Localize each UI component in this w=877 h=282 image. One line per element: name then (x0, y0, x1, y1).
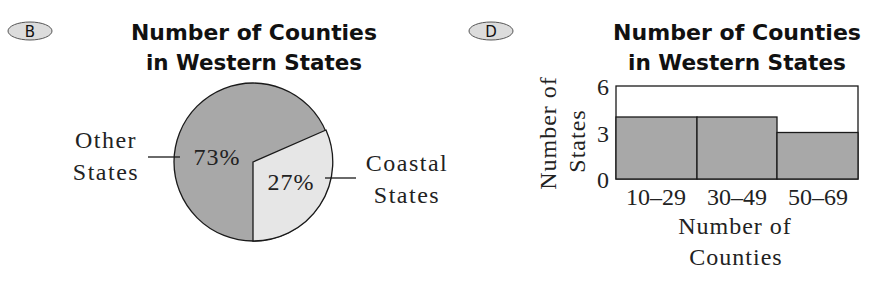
y-tick-3: 3 (597, 121, 609, 147)
bar-title-line2: in Western States (628, 51, 846, 75)
x-tick-30-49: 30–49 (707, 184, 767, 210)
bar-30-49 (697, 117, 777, 179)
bar-10-29 (616, 117, 697, 179)
x-axis-label-line1: Number of (678, 213, 792, 239)
pie-label-other-pct: 73% (194, 144, 241, 170)
badge-d-label: D (485, 23, 497, 41)
pie-label-coastal-line1: Coastal (366, 150, 449, 176)
bar-title-line1: Number of Counties (613, 21, 861, 45)
x-tick-10-29: 10–29 (626, 184, 686, 210)
badge-b: B (8, 22, 52, 41)
bar-50-69 (777, 133, 858, 180)
bar-chart: 0 3 6 Number of States 10–29 30–49 50–69… (535, 74, 858, 270)
pie-chart: 73% 27% Other States Coastal States (73, 83, 448, 241)
panel-d: D Number of Counties in Western States 0… (469, 21, 861, 270)
y-tick-0: 0 (597, 167, 609, 193)
badge-d: D (469, 22, 513, 41)
pie-label-coastal-pct: 27% (268, 169, 315, 195)
badge-b-label: B (25, 23, 35, 41)
y-tick-6: 6 (597, 74, 609, 100)
pie-label-other-line2: States (73, 159, 139, 185)
x-tick-50-69: 50–69 (788, 184, 848, 210)
figure: B Number of Counties in Western States 7… (0, 0, 877, 282)
y-axis-label-line1: Number of (535, 76, 561, 190)
y-axis-label-line2: States (564, 109, 590, 172)
pie-title-line1: Number of Counties (131, 21, 377, 45)
x-axis-label-line2: Counties (689, 244, 782, 270)
pie-label-other-line1: Other (75, 127, 137, 153)
pie-label-coastal-line2: States (374, 182, 440, 208)
panel-b: B Number of Counties in Western States 7… (8, 21, 448, 241)
pie-title-line2: in Western States (146, 51, 362, 75)
